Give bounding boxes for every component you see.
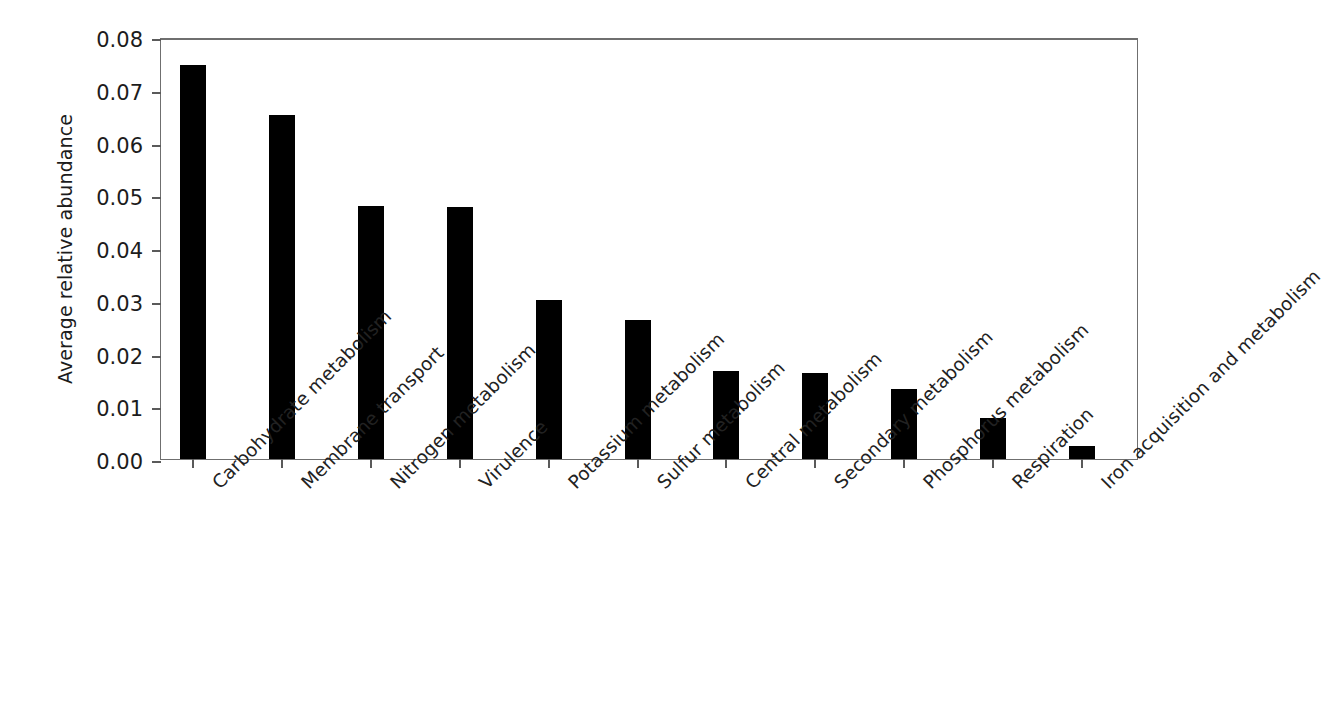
y-tick-label: 0.05 [53, 184, 143, 212]
y-tick-label: 0.01 [53, 395, 143, 423]
x-axis-tick [459, 459, 461, 468]
y-tick-label: 0.00 [53, 448, 143, 476]
y-tick-mark [152, 408, 161, 410]
y-tick-mark [152, 92, 161, 94]
x-axis-tick [903, 459, 905, 468]
y-tick-mark [152, 356, 161, 358]
y-tick-mark [152, 461, 161, 463]
y-tick-mark [152, 197, 161, 199]
y-tick-mark [152, 39, 161, 41]
bar [1069, 446, 1095, 459]
x-axis-tick [192, 459, 194, 468]
x-axis-tick [548, 459, 550, 468]
x-axis-tick [370, 459, 372, 468]
y-tick-label: 0.02 [53, 343, 143, 371]
x-axis-tick [1081, 459, 1083, 468]
x-axis-tick [281, 459, 283, 468]
x-axis-tick [637, 459, 639, 468]
y-tick-label: 0.03 [53, 290, 143, 318]
y-tick-mark [152, 145, 161, 147]
bar [180, 65, 206, 459]
y-tick-mark [152, 250, 161, 252]
x-axis-tick [725, 459, 727, 468]
x-axis-tick [814, 459, 816, 468]
y-tick-label: 0.08 [53, 26, 143, 54]
y-tick-mark [152, 303, 161, 305]
x-axis-tick [992, 459, 994, 468]
y-tick-label: 0.04 [53, 237, 143, 265]
y-tick-label: 0.07 [53, 79, 143, 107]
y-tick-label: 0.06 [53, 132, 143, 160]
